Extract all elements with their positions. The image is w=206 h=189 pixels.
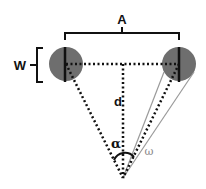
angle-diagram: A W d α ω [0, 0, 206, 189]
omega-lines [123, 72, 194, 178]
w-bracket [30, 48, 43, 82]
label-d: d [114, 94, 122, 109]
label-omega: ω [145, 145, 154, 158]
label-w: W [14, 58, 27, 73]
diagram-canvas: A W d α ω [0, 0, 206, 189]
left-dotted-line [66, 64, 123, 178]
label-alpha: α [111, 136, 121, 151]
a-bracket [65, 27, 179, 40]
right-dotted-line [123, 64, 179, 178]
label-a: A [117, 12, 127, 27]
dotted-lines [66, 64, 179, 178]
